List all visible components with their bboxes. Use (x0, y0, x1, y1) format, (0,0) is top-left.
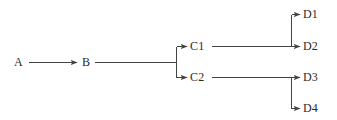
diagram-canvas: A B C1 C2 D1 D2 D3 D4 (0, 0, 337, 120)
node-d2: D2 (303, 40, 318, 52)
node-a: A (14, 56, 23, 68)
node-d3: D3 (303, 71, 318, 83)
node-d4: D4 (303, 102, 318, 114)
node-c1: C1 (190, 40, 204, 52)
node-b: B (82, 56, 90, 68)
node-c2: C2 (190, 71, 204, 83)
diagram-connectors (0, 0, 337, 120)
node-d1: D1 (303, 8, 318, 20)
